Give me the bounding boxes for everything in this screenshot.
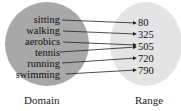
arrow-walking-325 [63, 31, 136, 34]
arrow-aerobics-505 [63, 42, 136, 45]
arrow-swimming-790 [66, 70, 136, 74]
arrow-tennis-505 [60, 47, 136, 52]
range-title: Range [135, 94, 163, 106]
arrow-sitting-80 [62, 20, 136, 23]
domain-title: Domain [24, 94, 59, 106]
arrow-running-720 [62, 58, 136, 63]
